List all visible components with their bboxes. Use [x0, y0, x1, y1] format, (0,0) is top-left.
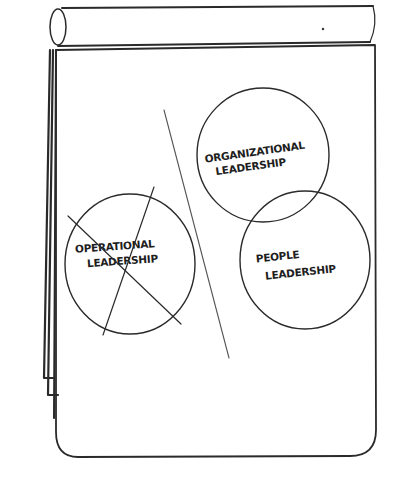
cross-out-stroke-1	[68, 216, 181, 324]
circle-operational-leadership: OPERATIONAL LEADERSHIP	[65, 187, 195, 335]
binding-roll-end	[50, 9, 66, 45]
binding-top-edge	[62, 6, 373, 8]
circle-label-line1: OPERATIONAL	[75, 237, 156, 255]
circle-organizational-leadership: ORGANIZATIONAL LEADERSHIP	[197, 88, 329, 222]
circle-label-line2: LEADERSHIP	[87, 252, 159, 269]
flipchart-sketch: ORGANIZATIONAL LEADERSHIP PEOPLE LEADERS…	[0, 0, 396, 483]
binding-dot	[322, 28, 324, 30]
circle-people-leadership: PEOPLE LEADERSHIP	[240, 191, 370, 329]
divider-line	[164, 110, 229, 358]
circle-label-line2: LEADERSHIP	[265, 262, 337, 281]
flipchart-binding	[50, 6, 375, 46]
circle-label-line1: PEOPLE	[255, 248, 300, 265]
binding-right-end	[370, 6, 375, 42]
